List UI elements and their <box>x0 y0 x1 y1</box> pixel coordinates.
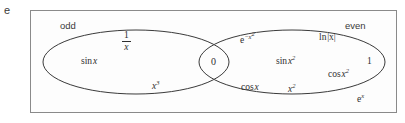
function-name: cos <box>328 69 341 79</box>
member-zero: 0 <box>211 57 216 68</box>
odd-set-ellipse <box>43 30 229 94</box>
member-one: 1 <box>367 57 372 67</box>
function-argument: x <box>93 56 97 66</box>
member-e-to-minus-x-squared: e−x2 <box>240 34 255 46</box>
venn-diagram-figure: e odd even 1 x sin x x3 0 e−x2 ln |x| si… <box>0 0 405 123</box>
power-exponent: 3 <box>156 79 159 86</box>
set-label-even: even <box>345 21 366 31</box>
member-sin-x-squared: sin x2 <box>276 57 295 67</box>
function-name: sin <box>81 56 92 66</box>
member-one-over-x: 1 x <box>122 31 131 52</box>
power-exponent: 2 <box>292 82 295 89</box>
member-e-to-the-x: ex <box>357 95 364 105</box>
venn-ellipses <box>0 0 405 123</box>
fraction-numerator: 1 <box>122 31 131 41</box>
function-argument: |x| <box>327 32 336 42</box>
function-argument: x <box>254 82 258 92</box>
fraction-denominator: x <box>122 43 131 53</box>
power-exponent: 2 <box>346 67 349 74</box>
function-name: cos <box>241 82 254 92</box>
function-name: sin <box>276 56 287 66</box>
member-x-cubed: x3 <box>152 82 159 92</box>
member-cos-x-squared: cos x2 <box>328 70 349 80</box>
power-exponent: 2 <box>292 54 295 61</box>
member-sin-x: sin x <box>81 57 97 67</box>
member-x-squared: x2 <box>288 85 295 95</box>
exponent-main: −x <box>244 33 251 40</box>
exponent-nested: 2 <box>252 30 255 37</box>
power-exponent: −x2 <box>244 33 255 40</box>
member-ln-abs-x: ln |x| <box>319 33 336 43</box>
set-label-odd: odd <box>60 21 76 31</box>
member-cos-x: cos x <box>241 83 259 93</box>
power-exponent: x <box>361 92 364 99</box>
